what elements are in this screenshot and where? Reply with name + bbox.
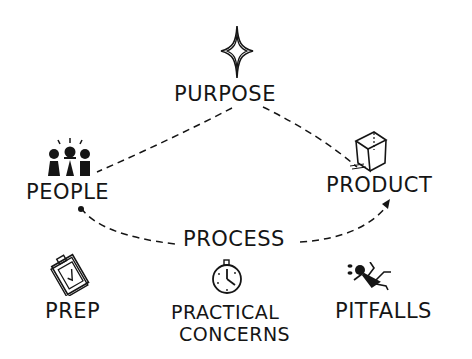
concerns-label: CONCERNS	[179, 325, 290, 344]
falling-person-icon	[346, 262, 406, 298]
cube-icon	[350, 130, 396, 174]
product-label: PRODUCT	[326, 175, 432, 196]
sparkle-star-icon	[219, 24, 255, 80]
purpose-label: PURPOSE	[174, 84, 276, 105]
pitfalls-label: PITFALLS	[335, 301, 432, 322]
people-label: PEOPLE	[26, 182, 109, 203]
process-label: PROCESS	[181, 229, 287, 250]
practical-label: PRACTICAL	[171, 303, 279, 322]
stopwatch-icon	[210, 259, 244, 295]
people-group-icon	[44, 138, 96, 180]
clipboard-check-icon	[48, 252, 94, 296]
prep-label: PREP	[45, 301, 100, 322]
